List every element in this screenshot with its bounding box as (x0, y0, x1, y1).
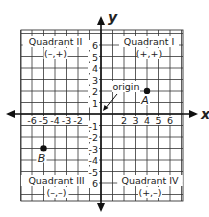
quadrant-signs: (+,–) (138, 187, 161, 198)
x-axis-left-arrow-icon (6, 110, 15, 118)
y-tick-label: -3 (89, 144, 98, 155)
x-tick-label: 2 (121, 115, 127, 126)
x-tick-label: -3 (62, 115, 71, 126)
x-tick-label: 6 (167, 115, 173, 126)
y-tick-label: 5 (92, 52, 98, 63)
coordinate-plane: xy -6-5-4-3-223456654321-1-2-3-4-5-6 Qua… (0, 0, 209, 217)
y-axis-down-arrow-icon (97, 203, 105, 212)
x-tick-label: 5 (155, 115, 161, 126)
x-axis-label: x (200, 106, 209, 122)
y-tick-label: -1 (89, 121, 98, 132)
quadrant-name: Quadrant III (28, 175, 84, 186)
x-tick-label: -6 (27, 115, 36, 126)
y-tick-label: 2 (92, 86, 98, 97)
x-tick-label: -4 (50, 115, 59, 126)
point-label: B (38, 152, 46, 165)
x-tick-label: 3 (132, 115, 138, 126)
quadrant-signs: (–,–) (47, 187, 67, 198)
y-tick-label: -2 (89, 132, 98, 143)
y-tick-label: 3 (92, 75, 98, 86)
y-tick-label: 1 (92, 98, 98, 109)
x-axis-right-arrow-icon (189, 110, 198, 118)
quadrant-name: Quadrant I (124, 36, 175, 47)
y-tick-label: 6 (92, 40, 98, 51)
origin-label: origin (112, 81, 139, 92)
quadrant-signs: (+,+) (136, 48, 162, 59)
y-tick-label: 4 (92, 63, 98, 74)
x-tick-label: -2 (73, 115, 82, 126)
y-axis-label: y (108, 9, 118, 25)
y-tick-label: -4 (89, 155, 98, 166)
quadrant-name: Quadrant II (29, 36, 82, 47)
y-axis-up-arrow-icon (97, 16, 105, 25)
quadrant-signs: (–,+) (44, 48, 67, 59)
x-tick-label: 4 (144, 115, 150, 126)
quadrant-name: Quadrant IV (121, 175, 179, 186)
point-label: A (140, 94, 149, 107)
x-tick-label: -5 (39, 115, 48, 126)
